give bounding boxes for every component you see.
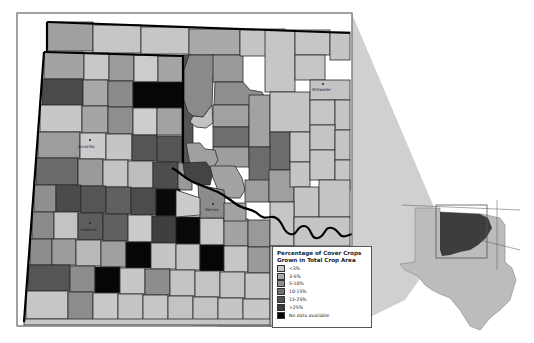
legend-item-10-15: 10-15% xyxy=(277,288,367,295)
legend-swatch xyxy=(277,265,285,272)
legend-swatch xyxy=(277,273,285,280)
city-dot-lubbock xyxy=(89,222,91,224)
city-dot-amarillo xyxy=(89,139,91,141)
legend-swatch xyxy=(277,304,285,311)
map-legend: Percentage of Cover Crops Grown in Total… xyxy=(272,246,372,328)
legend-title-line2: Grown in Total Crop Area xyxy=(277,257,367,264)
city-label-lubbock: Lubbock xyxy=(80,227,97,232)
legend-item-5-10: 5-10% xyxy=(277,280,367,287)
legend-swatch xyxy=(277,296,285,303)
city-label-stillwater: Stillwater xyxy=(312,87,331,92)
city-label-amarillo: Amarillo xyxy=(78,144,95,149)
legend-swatch xyxy=(277,288,285,295)
city-dot-stillwater xyxy=(322,83,324,85)
legend-item-gt25: >25% xyxy=(277,304,367,311)
map-figure: Amarillo Lubbock Vernon Stillwater Perce… xyxy=(0,0,534,343)
locator-inset-map xyxy=(400,200,520,330)
legend-item-15-25: 15-25% xyxy=(277,296,367,303)
legend-item-no-data: No data available xyxy=(277,312,367,319)
legend-title-line1: Percentage of Cover Crops xyxy=(277,250,367,257)
legend-item-lt3: <3% xyxy=(277,265,367,272)
legend-item-3-5: 3-5% xyxy=(277,272,367,279)
legend-swatch xyxy=(277,312,285,319)
legend-swatch xyxy=(277,280,285,287)
map-canvas xyxy=(0,0,534,343)
city-dot-vernon xyxy=(212,203,214,205)
city-label-vernon: Vernon xyxy=(205,207,219,212)
